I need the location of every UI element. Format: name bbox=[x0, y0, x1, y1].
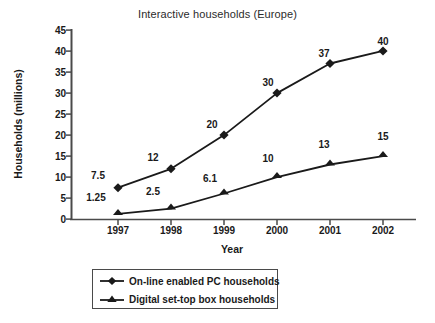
legend-marker-triangle-icon bbox=[99, 293, 125, 305]
chart-figure: Interactive households (Europe) Househol… bbox=[0, 0, 435, 323]
series-line-stb bbox=[118, 156, 383, 214]
legend-marker-diamond-icon bbox=[99, 275, 125, 287]
legend-label-pc: On-line enabled PC households bbox=[129, 276, 280, 287]
chart-legend: On-line enabled PC households Digital se… bbox=[92, 269, 278, 309]
legend-label-stb: Digital set-top box households bbox=[129, 294, 275, 305]
series-line-pc bbox=[118, 51, 383, 188]
series-markers-stb bbox=[113, 151, 388, 215]
x-tick-marks bbox=[118, 220, 383, 226]
series-markers-pc bbox=[113, 46, 387, 192]
legend-item-stb[interactable]: Digital set-top box households bbox=[99, 290, 275, 308]
legend-item-pc[interactable]: On-line enabled PC households bbox=[99, 272, 280, 290]
